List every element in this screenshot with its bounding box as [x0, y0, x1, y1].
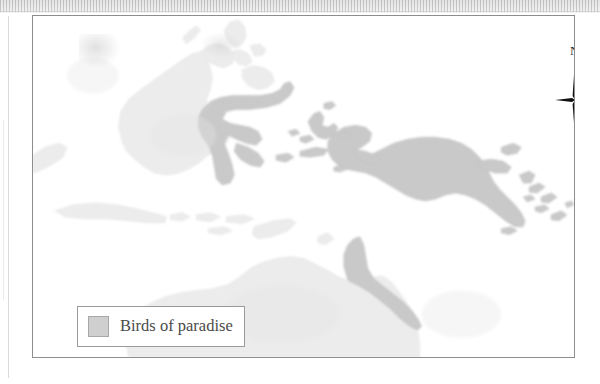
map-frame: N Birds of paradise	[32, 15, 575, 358]
land-aru	[318, 233, 334, 245]
range-obi	[300, 135, 314, 143]
page-gutter-line	[8, 16, 9, 378]
land-java	[55, 203, 167, 223]
land-timor	[252, 219, 296, 239]
legend-label-birds-of-paradise: Birds of paradise	[120, 318, 233, 335]
scanned-page: N Birds of paradise	[0, 0, 600, 384]
compass-north-label: N	[553, 44, 575, 58]
range-morotai	[324, 101, 336, 109]
speckle-a	[149, 113, 217, 157]
range-new-guinea	[328, 125, 525, 226]
range-solomon-c	[523, 195, 535, 202]
land-lesser-sunda-a	[170, 213, 190, 221]
range-solomon-d	[535, 205, 549, 213]
range-solomon-e	[551, 211, 567, 221]
compass-star-icon	[553, 58, 575, 138]
scan-artifact-edge	[0, 11, 600, 13]
range-solomon-a	[529, 183, 545, 193]
scan-smudge-top-left	[79, 34, 121, 68]
range-louisiade	[501, 227, 517, 235]
range-bacan	[288, 129, 300, 136]
page-gutter-line-secondary	[3, 120, 4, 300]
scan-smudge-top-center	[201, 32, 241, 58]
legend-swatch-birds-of-paradise	[88, 316, 109, 337]
land-mindanao	[242, 66, 274, 90]
land-visayas-b	[250, 44, 266, 56]
range-solomon-b	[541, 193, 557, 203]
range-bougainville	[519, 171, 535, 183]
range-seram	[300, 147, 328, 157]
range-buru	[276, 153, 294, 162]
range-sulawesi-southeast	[234, 143, 264, 167]
compass-rose: N	[553, 44, 575, 140]
land-sumatra-edge	[33, 143, 67, 173]
map-legend: Birds of paradise	[77, 306, 245, 347]
land-sumba	[208, 227, 232, 235]
land-lesser-sunda-b	[196, 213, 220, 222]
range-new-ireland	[501, 143, 521, 155]
land-palawan	[182, 26, 200, 44]
land-lesser-sunda-c	[226, 215, 254, 224]
range-solomon-f	[565, 201, 574, 208]
speckle-c	[422, 290, 502, 338]
